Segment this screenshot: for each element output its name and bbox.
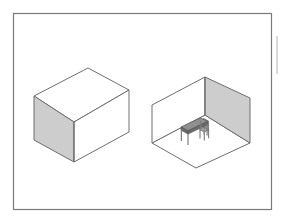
isometric-figure-canvas xyxy=(0,0,284,223)
figure-root xyxy=(0,0,284,223)
